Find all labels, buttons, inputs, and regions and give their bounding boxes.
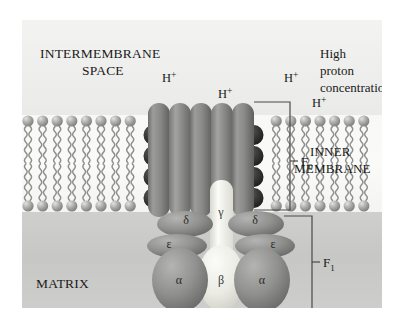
lipid-head xyxy=(329,115,340,126)
lipid-head xyxy=(125,200,136,211)
lipid-head xyxy=(358,115,369,126)
lipid-head xyxy=(95,115,106,126)
lipid-head xyxy=(95,200,106,211)
f0-helix-2 xyxy=(169,103,191,217)
subunit-label-alpha-left: α xyxy=(176,273,183,287)
proton-note-line2: proton xyxy=(320,63,354,78)
intermembrane-space-label-line2: SPACE xyxy=(82,63,124,78)
f0-helix-3 xyxy=(190,103,212,217)
matrix-label: MATRIX xyxy=(36,276,89,291)
lipid-head xyxy=(37,200,48,211)
lipid-head xyxy=(300,115,311,126)
lipid-head xyxy=(81,200,92,211)
lipid-head xyxy=(81,115,92,126)
lipid-head xyxy=(358,200,369,211)
f0-helix-5 xyxy=(232,103,254,217)
lipid-head xyxy=(110,115,121,126)
subunit-label-delta-left: δ xyxy=(183,213,189,227)
lipid-head xyxy=(110,200,121,211)
lipid-head xyxy=(329,200,340,211)
lipid-head xyxy=(52,200,63,211)
subunit-label-gamma: γ xyxy=(217,205,224,219)
lipid-head xyxy=(66,115,77,126)
lipid-head xyxy=(300,200,311,211)
atp-synthase-figure: INTERMEMBRANE SPACE MATRIX INNER MEMBRAN… xyxy=(22,20,382,308)
lipid-head xyxy=(344,200,355,211)
f0-helix-1 xyxy=(148,103,170,217)
lipid-head xyxy=(22,115,33,126)
lipid-head xyxy=(314,200,325,211)
lipid-head xyxy=(125,115,136,126)
lipid-head xyxy=(285,115,296,126)
lipid-head xyxy=(37,115,48,126)
lipid-head xyxy=(314,115,325,126)
inner-membrane-label-line1: INNER xyxy=(310,144,351,159)
lipid-head xyxy=(52,115,63,126)
subunit-label-epsilon-left: ε xyxy=(166,237,171,251)
lipid-head xyxy=(344,115,355,126)
subunit-label-beta-center: β xyxy=(218,273,224,287)
subunit-label-epsilon-right: ε xyxy=(270,237,275,251)
lipid-head xyxy=(22,200,33,211)
f0-transmembrane-complex xyxy=(144,103,264,217)
subunit-label-delta-right: δ xyxy=(252,213,258,227)
lipid-head xyxy=(271,115,282,126)
subunit-label-alpha-right: α xyxy=(259,273,266,287)
lipid-head xyxy=(66,200,77,211)
intermembrane-space-label: INTERMEMBRANE xyxy=(40,46,160,61)
proton-note-line3: concentration xyxy=(320,80,382,95)
proton-note-line1: High xyxy=(320,46,347,61)
